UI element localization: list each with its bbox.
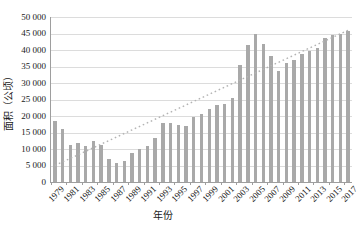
y-tick-label: 30 000 bbox=[0, 78, 46, 89]
y-tick-label: 50 000 bbox=[0, 12, 46, 23]
gridline bbox=[51, 17, 352, 18]
y-axis-line bbox=[50, 17, 51, 183]
bar bbox=[169, 123, 172, 182]
bar bbox=[115, 163, 118, 182]
y-tick-label: 0 bbox=[0, 177, 46, 188]
bar bbox=[254, 34, 257, 182]
bar bbox=[231, 98, 234, 182]
bar bbox=[92, 141, 95, 182]
bar bbox=[223, 104, 226, 182]
gridline bbox=[51, 50, 352, 51]
bar bbox=[177, 125, 180, 182]
bar bbox=[339, 34, 342, 183]
bar bbox=[61, 129, 64, 182]
bar bbox=[84, 146, 87, 182]
bar bbox=[269, 56, 272, 182]
bar bbox=[107, 159, 110, 182]
gridline bbox=[51, 83, 352, 84]
bar bbox=[130, 153, 133, 182]
bar bbox=[208, 109, 211, 182]
bar bbox=[215, 105, 218, 182]
bar bbox=[331, 35, 334, 182]
y-tick-label: 25 000 bbox=[0, 94, 46, 105]
bar bbox=[308, 51, 311, 182]
x-tick-label: 2017 bbox=[339, 184, 359, 204]
bar bbox=[153, 138, 156, 182]
bar bbox=[192, 117, 195, 182]
bar bbox=[184, 126, 187, 182]
bar bbox=[300, 54, 303, 182]
bar bbox=[99, 145, 102, 182]
bar bbox=[323, 38, 326, 182]
y-tick-label: 20 000 bbox=[0, 111, 46, 122]
gridline bbox=[51, 34, 352, 35]
y-tick-label: 5 000 bbox=[0, 160, 46, 171]
y-tick-label: 45 000 bbox=[0, 28, 46, 39]
bar bbox=[346, 31, 349, 182]
y-tick-label: 40 000 bbox=[0, 45, 46, 56]
bar bbox=[277, 71, 280, 182]
y-tick-label: 35 000 bbox=[0, 61, 46, 72]
y-tick-label: 15 000 bbox=[0, 127, 46, 138]
bar bbox=[138, 149, 141, 182]
bar bbox=[69, 145, 72, 182]
bar bbox=[285, 63, 288, 182]
bar bbox=[292, 60, 295, 182]
x-axis-title: 年份 bbox=[130, 207, 196, 222]
y-tick-label: 10 000 bbox=[0, 144, 46, 155]
bar bbox=[161, 123, 164, 182]
bar bbox=[76, 143, 79, 182]
x-axis-line bbox=[50, 182, 352, 183]
bar bbox=[262, 44, 265, 182]
bar bbox=[53, 121, 56, 182]
bar bbox=[238, 65, 241, 182]
bar bbox=[316, 48, 319, 182]
gridline bbox=[51, 100, 352, 101]
bar bbox=[123, 161, 126, 182]
gridline bbox=[51, 67, 352, 68]
bar bbox=[246, 45, 249, 182]
bar bbox=[200, 114, 203, 182]
area-by-year-bar-chart: 面积（公顷） 05 00010 00015 00020 00025 00030 … bbox=[0, 0, 364, 232]
bar bbox=[146, 146, 149, 182]
